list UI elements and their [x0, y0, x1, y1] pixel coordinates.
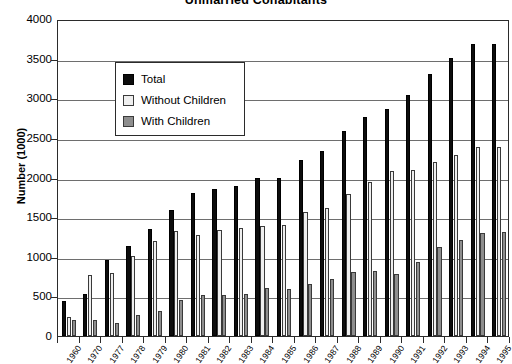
x-axis-tick-label: 1988	[345, 344, 363, 364]
bar-total	[234, 186, 238, 336]
x-axis-tick-mark	[466, 337, 467, 343]
x-axis-tick-mark	[315, 337, 316, 343]
bar-without	[390, 171, 394, 336]
bar-group	[359, 21, 381, 336]
legend-item-without-children: Without Children	[123, 90, 244, 111]
bar-with	[244, 294, 248, 336]
bar-without	[454, 155, 458, 336]
bar-with	[158, 311, 162, 336]
bar-without	[282, 225, 286, 336]
bar-group	[338, 21, 360, 336]
bar-group	[424, 21, 446, 336]
bar-with	[115, 323, 119, 336]
bar-without	[67, 317, 71, 336]
bar-total	[255, 178, 259, 336]
bar-total	[406, 95, 410, 336]
x-axis-tick-label: 1979	[151, 344, 169, 364]
bar-group	[316, 21, 338, 336]
legend-item-total: Total	[123, 69, 244, 90]
legend-label-total: Total	[141, 74, 165, 86]
x-axis-tick-mark	[509, 337, 510, 343]
bar-without	[110, 273, 114, 336]
bar-group	[58, 21, 80, 336]
x-axis-tick-label: 1987	[323, 344, 341, 364]
bar-with	[93, 320, 97, 336]
bar-without	[217, 230, 221, 336]
legend-label-with-children: With Children	[141, 116, 210, 128]
x-axis: 1960197019771978197919801981198219831984…	[57, 337, 509, 364]
bar-group	[252, 21, 274, 336]
bar-with	[72, 320, 76, 336]
bar-with	[394, 274, 398, 336]
bar-with	[330, 279, 334, 336]
y-axis-tick-label: 1000	[6, 252, 52, 264]
bar-without	[239, 228, 243, 336]
x-axis-tick-label: 1980	[172, 344, 190, 364]
bar-group	[445, 21, 467, 336]
bar-with	[351, 272, 355, 336]
x-axis-tick-mark	[272, 337, 273, 343]
chart-legend: Total Without Children With Children	[115, 62, 245, 136]
x-axis-tick-mark	[57, 337, 58, 343]
x-axis-tick-label: 1978	[129, 344, 147, 364]
bar-total	[320, 151, 324, 336]
bar-with	[222, 295, 226, 336]
bar-total	[105, 260, 109, 336]
x-axis-tick-mark	[251, 337, 252, 343]
legend-swatch-total-icon	[123, 74, 134, 85]
bar-with	[265, 288, 269, 336]
bar-total	[83, 294, 87, 336]
x-axis-tick-label: 1989	[366, 344, 384, 364]
bar-without	[174, 231, 178, 336]
bar-total	[428, 74, 432, 336]
bar-without	[260, 226, 264, 336]
bar-group	[381, 21, 403, 336]
x-axis-tick-label: 1994	[474, 344, 492, 364]
y-axis-tick-label: 2000	[6, 173, 52, 185]
x-axis-tick-mark	[186, 337, 187, 343]
legend-swatch-with-children-icon	[123, 116, 134, 127]
bar-group	[402, 21, 424, 336]
x-axis-tick-label: 1992	[431, 344, 449, 364]
bar-with	[437, 247, 441, 336]
bar-group	[467, 21, 489, 336]
x-axis-tick-mark	[294, 337, 295, 343]
y-axis-tick-label: 1500	[6, 212, 52, 224]
bar-total	[385, 109, 389, 336]
bar-with	[416, 262, 420, 336]
x-axis-tick-label: 1970	[86, 344, 104, 364]
x-axis-tick-label: 1991	[409, 344, 427, 364]
bar-total	[191, 193, 195, 336]
bar-total	[169, 210, 173, 336]
bar-total	[299, 160, 303, 336]
x-axis-tick-label: 1983	[237, 344, 255, 364]
chart-title: Unmarried Cohabitants	[0, 0, 512, 7]
x-axis-tick-mark	[358, 337, 359, 343]
bar-without	[88, 275, 92, 336]
y-axis-tick-label: 3000	[6, 94, 52, 106]
x-axis-tick-label: 1981	[194, 344, 212, 364]
y-axis-tick-label: 4000	[6, 14, 52, 26]
bar-group	[295, 21, 317, 336]
bar-total	[212, 189, 216, 336]
x-axis-tick-label: 1985	[280, 344, 298, 364]
bar-without	[131, 256, 135, 336]
x-axis-tick-mark	[143, 337, 144, 343]
bar-total	[277, 178, 281, 336]
bar-without	[497, 147, 501, 336]
x-axis-tick-label: 1993	[452, 344, 470, 364]
x-axis-tick-mark	[122, 337, 123, 343]
y-axis-title: Number (1000)	[15, 106, 27, 226]
x-axis-tick-mark	[380, 337, 381, 343]
x-axis-tick-mark	[337, 337, 338, 343]
x-axis-tick-mark	[423, 337, 424, 343]
bar-without	[303, 212, 307, 336]
x-axis-tick-mark	[229, 337, 230, 343]
x-axis-tick-label: 1982	[215, 344, 233, 364]
x-axis-tick-mark	[401, 337, 402, 343]
x-axis-tick-mark	[487, 337, 488, 343]
bar-total	[449, 58, 453, 336]
x-axis-tick-label: 1984	[258, 344, 276, 364]
y-axis-tick-label: 2500	[6, 133, 52, 145]
bar-total	[471, 44, 475, 336]
